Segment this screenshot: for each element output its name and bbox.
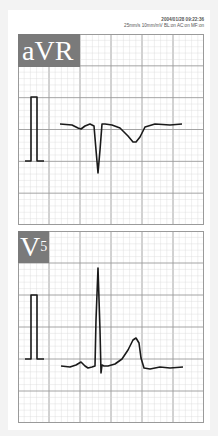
ecg-header: 2004/01/28 09:22:36 25mm/s 10mm/mV BL:on… [124,17,204,29]
settings-text: 25mm/s 10mm/mV BL:on AC:on MF:on [124,23,204,29]
lead-avr-panel: aVR [18,34,204,225]
lead-v5-panel: V5 [18,231,204,423]
lead-avr-label: aVR [18,34,80,67]
lead-v5-label: V5 [18,231,49,263]
calibration-pulse [25,97,44,161]
